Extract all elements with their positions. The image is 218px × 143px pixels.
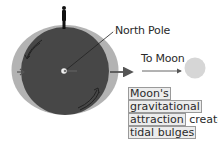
moon-circle — [185, 58, 206, 79]
caption-creates: creates — [189, 113, 218, 126]
person-silhouette-icon — [62, 6, 66, 29]
north-pole-label: North Pole — [115, 25, 170, 37]
to-moon-label: To Moon — [141, 53, 185, 65]
caption-tidal-bulges: tidal bulges — [128, 126, 196, 139]
caption: Moon's gravitational attraction creates … — [128, 87, 218, 139]
caption-moons: Moon's — [128, 87, 171, 100]
caption-gravitational: gravitational — [128, 100, 202, 113]
caption-attraction: attraction — [128, 113, 186, 126]
